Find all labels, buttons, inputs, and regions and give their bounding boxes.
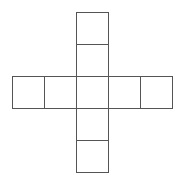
net-square-7 — [77, 109, 109, 141]
cross-net-diagram — [0, 0, 182, 183]
net-square-2 — [13, 77, 45, 109]
net-square-4 — [77, 77, 109, 109]
net-square-3 — [45, 77, 77, 109]
net-square-8 — [77, 141, 109, 173]
net-square-1 — [77, 45, 109, 77]
net-square-6 — [141, 77, 173, 109]
net-square-0 — [77, 13, 109, 45]
net-square-5 — [109, 77, 141, 109]
